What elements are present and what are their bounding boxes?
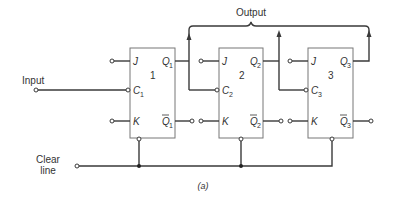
- svg-text:2: 2: [257, 122, 261, 129]
- clear-line: Clear line: [36, 141, 332, 176]
- ff3-number: 3: [328, 70, 334, 81]
- input-label: Input: [22, 75, 44, 86]
- svg-text:2: 2: [257, 62, 261, 69]
- ff3-j-label: J: [310, 56, 317, 67]
- clear-label-2: line: [40, 165, 56, 176]
- svg-text:3: 3: [347, 122, 351, 129]
- svg-text:2: 2: [229, 91, 233, 98]
- ripple-counter-diagram: Output Input J C 1 K 1 Q 1 Q 1: [0, 0, 395, 204]
- ff1-j-label: J: [132, 56, 139, 67]
- ff2-number: 2: [239, 70, 245, 81]
- input-terminal: Input: [22, 75, 126, 92]
- svg-text:1: 1: [140, 91, 144, 98]
- clear-label-1: Clear: [36, 154, 61, 165]
- figure-caption: (a): [198, 181, 209, 191]
- ff2-j-label: J: [221, 56, 228, 67]
- svg-text:3: 3: [318, 91, 322, 98]
- ff1-number: 1: [150, 70, 156, 81]
- flipflop-2: J C 2 K 2 Q 2 Q 2: [199, 48, 283, 141]
- flipflop-1: J C 1 K 1 Q 1 Q 1: [110, 48, 194, 141]
- svg-text:3: 3: [347, 62, 351, 69]
- output-label: Output: [236, 7, 266, 18]
- svg-text:1: 1: [169, 122, 173, 129]
- flipflop-3: J C 3 K 3 Q 3 Q 3: [288, 30, 373, 141]
- svg-text:1: 1: [169, 62, 173, 69]
